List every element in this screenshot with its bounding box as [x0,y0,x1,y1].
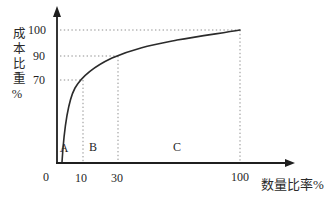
y-axis-arrow-icon [53,6,61,17]
x-axis-title: 数量比率% [261,174,324,193]
plot-area [0,0,330,203]
region-label-c: C [173,141,181,153]
y-tick-90: 90 [33,50,45,62]
x-tick-0: 0 [43,171,49,183]
y-tick-70: 70 [33,74,45,86]
y-axis-title: 成本比重% [8,27,27,103]
abc-analysis-chart: 100 90 70 0 10 30 100 A B C 成本比重% 数量比率% [0,0,330,203]
x-tick-30: 30 [111,172,123,184]
region-label-a: A [60,142,69,154]
y-tick-100: 100 [28,24,46,36]
region-label-b: B [89,141,97,153]
x-tick-100: 100 [231,171,249,183]
x-tick-10: 10 [75,172,87,184]
x-axis-arrow-icon [285,159,295,167]
